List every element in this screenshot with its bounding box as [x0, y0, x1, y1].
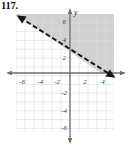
x-tick-label--6: -6: [19, 78, 25, 86]
y-tick-label-2: 2: [63, 54, 67, 62]
y-axis-top-arrow-icon: [68, 8, 73, 14]
x-tick-label-2: 2: [83, 78, 87, 86]
x-tick-label-4: 4: [101, 78, 105, 86]
y-tick-label--6: -6: [61, 124, 67, 132]
y-tick-label--2: -2: [61, 89, 67, 97]
y-axis-label: y: [73, 8, 78, 17]
y-tick-label--4: -4: [61, 107, 67, 115]
y-axis-bottom-arrow-icon: [68, 138, 73, 144]
coordinate-plane-svg: -6 -4 -2 2 4 6 4 2 -2 -4 -6 y: [0, 0, 132, 145]
x-tick-label--4: -4: [37, 78, 43, 86]
y-tick-label-4: 4: [63, 36, 67, 44]
x-axis-left-arrow-icon: [6, 71, 12, 76]
x-axis-right-arrow-icon: [120, 71, 126, 76]
x-tick-label--2: -2: [54, 78, 60, 86]
graph-figure: -6 -4 -2 2 4 6 4 2 -2 -4 -6 y: [0, 0, 132, 145]
y-tick-label-6: 6: [63, 18, 67, 26]
